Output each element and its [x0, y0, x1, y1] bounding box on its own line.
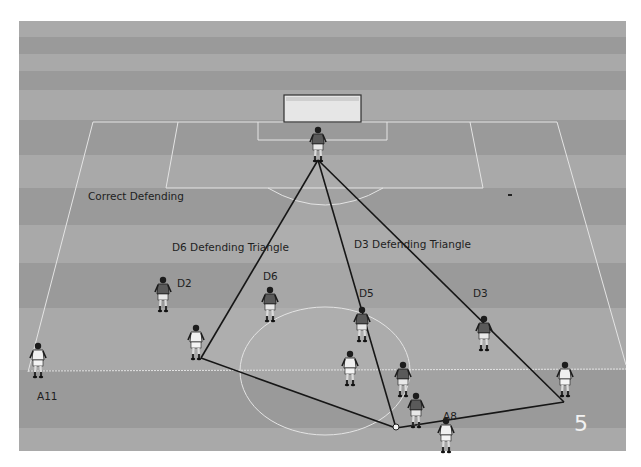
pitch-stripe	[19, 428, 626, 451]
d6-triangle-label: D6 Defending Triangle	[172, 241, 289, 253]
diagram-title: Correct Defending	[88, 190, 184, 202]
player-label-d5: D5	[359, 287, 374, 299]
marker-dot	[508, 194, 512, 196]
player-label-a8: A8	[443, 410, 457, 422]
defending-diagram: Correct Defending D6 Defending Triangle …	[0, 0, 641, 467]
player-label-a11: A11	[37, 390, 58, 402]
goal	[284, 95, 361, 122]
ball-icon	[393, 424, 399, 430]
player-label-d2: D2	[177, 277, 192, 289]
pitch-stripe	[19, 37, 626, 54]
pitch-stripe	[19, 21, 626, 37]
player-label-d6: D6	[263, 270, 278, 282]
slide-number: 5	[574, 411, 588, 436]
player-label-d3: D3	[473, 287, 488, 299]
pitch-stripe	[19, 71, 626, 90]
d3-triangle-label: D3 Defending Triangle	[354, 238, 471, 250]
pitch-stripe	[19, 54, 626, 71]
